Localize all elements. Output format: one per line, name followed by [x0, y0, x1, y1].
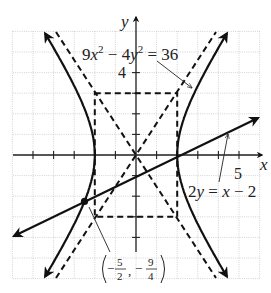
hyperbola-line-diagram: y x 5 4 9x2 − 4y2 = 36 2y = x − 2 − 5 2 …	[0, 0, 271, 293]
svg-text:2: 2	[117, 270, 123, 282]
hyperbola-label-pointer	[157, 61, 192, 88]
svg-text:−: −	[135, 261, 142, 276]
x-tick-label-5: 5	[234, 165, 242, 182]
y-axis-label: y	[119, 12, 129, 31]
y-tick-label-4: 4	[118, 64, 126, 81]
svg-text:,: ,	[128, 263, 131, 278]
intersection-point	[81, 198, 88, 205]
svg-text:9: 9	[148, 256, 154, 268]
hyperbola-equation-label: 9x2 − 4y2 = 36	[82, 43, 178, 64]
line-equation-label: 2y = x − 2	[188, 182, 256, 201]
x-axis-label: x	[259, 155, 268, 174]
svg-text:5: 5	[117, 256, 123, 268]
svg-text:4: 4	[148, 270, 154, 282]
intersection-point-label: − 5 2 , − 9 4	[103, 255, 165, 283]
svg-text:−: −	[107, 261, 114, 276]
line-label-pointer	[219, 134, 228, 182]
point-label-pointer	[89, 207, 110, 252]
